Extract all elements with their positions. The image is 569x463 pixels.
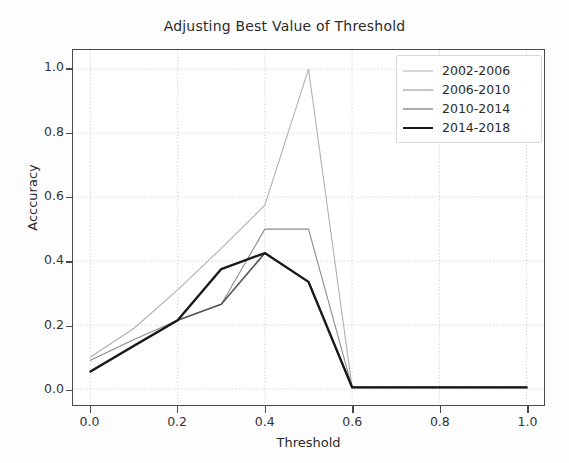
y-tick-mark bbox=[66, 261, 73, 262]
x-tick-mark bbox=[90, 406, 91, 413]
legend-line-swatch bbox=[403, 84, 433, 96]
x-tick-label: 0.4 bbox=[235, 414, 295, 429]
chart-legend: 2002-20062006-20102010-20142014-2018 bbox=[396, 55, 542, 143]
series-line-2010-2014 bbox=[90, 253, 526, 387]
y-axis-label: Acccuracy bbox=[25, 143, 40, 253]
y-tick-label: 0.8 bbox=[22, 124, 64, 139]
y-tick-label: 1.0 bbox=[22, 59, 64, 74]
y-tick-mark bbox=[66, 197, 73, 198]
legend-line-swatch bbox=[403, 122, 433, 134]
legend-line-swatch bbox=[403, 103, 433, 115]
legend-item-label: 2010-2014 bbox=[442, 101, 510, 116]
series-line-2006-2010 bbox=[90, 229, 526, 387]
y-tick-mark bbox=[66, 390, 73, 391]
y-tick-label: 0.4 bbox=[22, 252, 64, 267]
legend-item-label: 2002-2006 bbox=[442, 63, 510, 78]
x-tick-mark bbox=[177, 406, 178, 413]
x-tick-mark bbox=[265, 406, 266, 413]
legend-line-swatch bbox=[403, 65, 433, 77]
legend-item-label: 2006-2010 bbox=[442, 82, 510, 97]
x-axis-label: Threshold bbox=[72, 435, 545, 450]
x-tick-mark bbox=[352, 406, 353, 413]
legend-item[interactable]: 2014-2018 bbox=[403, 118, 535, 137]
y-tick-mark bbox=[66, 133, 73, 134]
y-tick-label: 0.2 bbox=[22, 317, 64, 332]
x-tick-label: 0.6 bbox=[322, 414, 382, 429]
legend-item-label: 2014-2018 bbox=[442, 120, 510, 135]
series-line-2014-2018 bbox=[90, 253, 526, 387]
x-tick-label: 1.0 bbox=[497, 414, 557, 429]
x-tick-mark bbox=[440, 406, 441, 413]
x-tick-mark bbox=[527, 406, 528, 413]
x-tick-label: 0.0 bbox=[60, 414, 120, 429]
legend-item[interactable]: 2010-2014 bbox=[403, 99, 535, 118]
legend-item[interactable]: 2002-2006 bbox=[403, 61, 535, 80]
legend-item[interactable]: 2006-2010 bbox=[403, 80, 535, 99]
y-tick-label: 0.0 bbox=[22, 381, 64, 396]
y-tick-mark bbox=[66, 68, 73, 69]
y-tick-mark bbox=[66, 326, 73, 327]
chart-title: Adjusting Best Value of Threshold bbox=[0, 18, 569, 34]
x-tick-label: 0.2 bbox=[147, 414, 207, 429]
chart-figure: Adjusting Best Value of Threshold 0.00.2… bbox=[0, 0, 569, 463]
x-tick-label: 0.8 bbox=[410, 414, 470, 429]
